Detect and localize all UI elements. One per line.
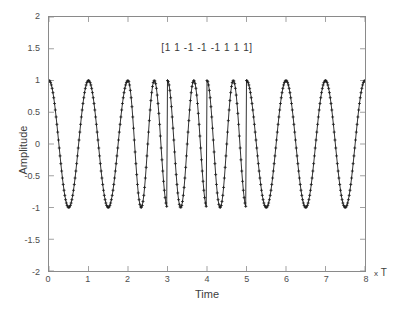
x-axis-unit-label: x T — [374, 267, 387, 278]
x-axis-unit-symbol: T — [381, 267, 387, 278]
x-tick-label: 0 — [45, 274, 50, 284]
symbol-sequence-annotation: [1 1 -1 -1 -1 1 1 1] — [48, 42, 366, 53]
y-tick-label: 0.5 — [27, 107, 44, 117]
y-tick-label: 2 — [35, 11, 44, 21]
x-tick-label: 3 — [165, 274, 170, 284]
x-axis-title: Time — [48, 288, 366, 300]
y-tick-label: 1 — [35, 75, 44, 85]
y-tick-label: -2 — [32, 267, 44, 277]
x-tick-label: 7 — [324, 274, 329, 284]
y-tick-label: 0 — [35, 139, 44, 149]
y-tick-label: 1.5 — [27, 43, 44, 53]
figure-canvas: -2-1.5-1-0.500.511.52 Amplitude [1 1 -1 … — [0, 0, 407, 310]
y-tick-label: -1.5 — [24, 235, 44, 245]
waveform-plot — [49, 17, 365, 271]
y-tick-label: -1 — [32, 203, 44, 213]
x-tick-label: 2 — [125, 274, 130, 284]
x-tick-label: 1 — [85, 274, 90, 284]
signal-line — [49, 81, 365, 208]
x-tick-label: 8 — [363, 274, 368, 284]
plot-area — [48, 16, 366, 272]
x-axis-tick-labels: 012345678 — [48, 274, 366, 288]
y-axis-title: Amplitude — [17, 105, 29, 195]
x-tick-label: 4 — [204, 274, 209, 284]
x-tick-label: 6 — [284, 274, 289, 284]
x-tick-label: 5 — [244, 274, 249, 284]
